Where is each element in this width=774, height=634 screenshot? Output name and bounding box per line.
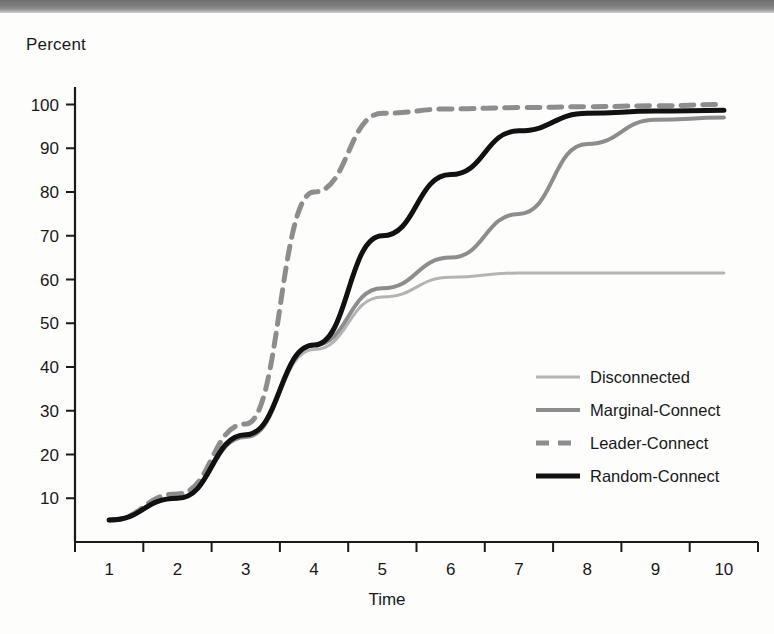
y-tick-label: 60 [40, 271, 59, 290]
x-tick-label: 10 [714, 560, 733, 579]
x-tick-label: 4 [309, 560, 318, 579]
data-series-group [109, 105, 724, 521]
legend-label-marginal-connect: Marginal-Connect [590, 401, 721, 419]
series-line-random-connect [109, 110, 724, 520]
y-tick-label: 100 [31, 96, 59, 115]
x-tick-label: 6 [446, 560, 455, 579]
series-line-leader-connect [109, 105, 724, 521]
y-tick-label: 10 [40, 489, 59, 508]
series-line-marginal-connect [109, 118, 724, 520]
y-axis-ticks: 102030405060708090100 [31, 96, 75, 509]
y-tick-label: 50 [40, 314, 59, 333]
x-tick-label: 8 [583, 560, 592, 579]
x-tick-label: 7 [514, 560, 523, 579]
chart-legend: DisconnectedMarginal-ConnectLeader-Conne… [536, 368, 721, 485]
legend-label-leader-connect: Leader-Connect [590, 434, 709, 452]
scan-banner-strip [0, 0, 774, 13]
legend-label-random-connect: Random-Connect [590, 467, 720, 485]
line-chart: Percent Time 102030405060708090100 12345… [0, 13, 774, 634]
legend-label-disconnected: Disconnected [590, 368, 690, 386]
chart-page: Percent Time 102030405060708090100 12345… [0, 0, 774, 634]
plot-canvas: 102030405060708090100 12345678910 Discon… [0, 13, 774, 634]
x-tick-label: 2 [173, 560, 182, 579]
y-tick-label: 90 [40, 139, 59, 158]
y-tick-label: 70 [40, 227, 59, 246]
x-tick-label: 5 [378, 560, 387, 579]
x-tick-label: 3 [241, 560, 250, 579]
y-tick-label: 80 [40, 183, 59, 202]
x-tick-label: 9 [651, 560, 660, 579]
x-tick-label: 1 [104, 560, 113, 579]
y-tick-label: 30 [40, 402, 59, 421]
y-tick-label: 40 [40, 358, 59, 377]
y-tick-label: 20 [40, 446, 59, 465]
x-axis-ticks: 12345678910 [75, 542, 758, 579]
